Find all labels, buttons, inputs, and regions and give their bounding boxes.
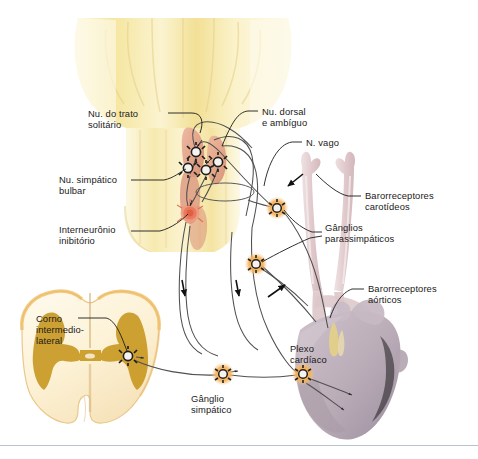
ganglion-cardiac-plexus (292, 363, 315, 386)
autonomic-cardiovascular-diagram: Nu. do trato solitário Nu. dorsal e ambí… (0, 0, 478, 459)
bottom-rule (0, 445, 478, 446)
ganglion-sympathetic (212, 363, 235, 386)
label-corno-intermediolateral: Corno intermedio- lateral (36, 313, 84, 347)
label-ganglio-simpatico: Gânglio simpático (191, 393, 232, 415)
label-plexo-cardiaco: Plexo cardíaco (290, 343, 327, 365)
label-n-vago: N. vago (306, 137, 339, 148)
arrow-descending-left (182, 280, 185, 296)
label-nu-simpatico-bulbar: Nu. simpático bulbar (59, 174, 117, 196)
label-nu-trato-solitario: Nu. do trato solitário (88, 108, 138, 130)
leader-baro-carot (316, 174, 361, 196)
label-ganglios-parassimpaticos: Gânglios parassimpáticos (325, 222, 394, 244)
label-nu-dorsal-ambiguo: Nu. dorsal e ambíguo (262, 106, 307, 128)
label-barorreceptores-carotideos: Barorreceptores carotídeos (365, 190, 434, 212)
ganglion-carotid-para (266, 197, 289, 220)
ganglion-aortic-para (245, 253, 268, 276)
arrow-afferent-aortic (268, 285, 285, 297)
arrow-afferent-carotid (288, 174, 303, 186)
leader-ganglios-1 (284, 210, 322, 232)
label-interneuronio-inibitorio: Interneurônio inibitório (59, 224, 116, 246)
arrow-descending-right (236, 280, 239, 296)
label-barorreceptores-aorticos: Barorreceptores aórticos (368, 283, 437, 305)
